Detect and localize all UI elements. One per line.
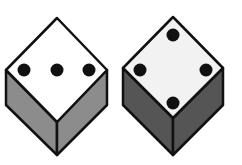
pip-icon <box>134 64 147 77</box>
pip-icon <box>18 64 31 77</box>
pip-icon <box>51 64 64 77</box>
pip-icon <box>167 97 180 110</box>
left-die <box>6 18 107 155</box>
right-die <box>123 17 223 155</box>
pip-icon <box>83 64 96 77</box>
pip-icon <box>167 29 180 42</box>
pip-icon <box>200 64 213 77</box>
dice-diagram <box>0 0 242 165</box>
